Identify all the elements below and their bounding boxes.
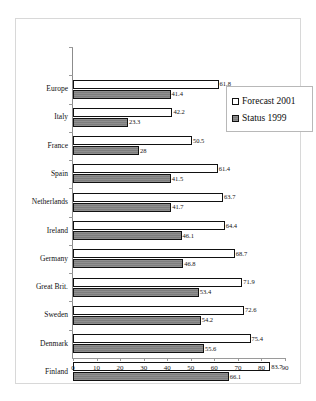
x-axis-tick bbox=[261, 358, 262, 361]
category-label: Spain bbox=[51, 169, 68, 179]
x-axis-tick-label: 70 bbox=[234, 364, 241, 373]
legend-item: Status 1999 bbox=[232, 113, 308, 124]
category-label: Italy bbox=[54, 112, 68, 122]
bar-forecast: 61.4 bbox=[73, 164, 218, 173]
bar-value-label: 42.2 bbox=[173, 108, 184, 116]
bar-status: 23.3 bbox=[73, 118, 128, 127]
x-axis-tick-label: 60 bbox=[211, 364, 218, 373]
bar-status: 28 bbox=[73, 146, 139, 155]
x-axis-tick-label: 20 bbox=[117, 364, 124, 373]
bar-forecast: 50.5 bbox=[73, 136, 192, 145]
x-axis-tick bbox=[191, 358, 192, 361]
bar-value-label: 46.8 bbox=[184, 260, 195, 268]
bar-status: 54.2 bbox=[73, 316, 201, 325]
bar-group: Ireland64.446.1 bbox=[73, 221, 285, 240]
x-axis-tick bbox=[144, 358, 145, 361]
y-axis-tick bbox=[69, 273, 73, 274]
bar-status: 53.4 bbox=[73, 288, 199, 297]
bar-status: 46.8 bbox=[73, 259, 183, 268]
legend-label: Forecast 2001 bbox=[242, 96, 296, 107]
bar-forecast: 68.7 bbox=[73, 249, 235, 258]
x-axis-tick bbox=[73, 358, 74, 361]
bar-forecast: 72.6 bbox=[73, 306, 244, 315]
bar-status: 55.6 bbox=[73, 344, 204, 353]
bar-value-label: 68.7 bbox=[236, 250, 247, 258]
x-axis-tick-label: 50 bbox=[187, 364, 194, 373]
bar-value-label: 75.4 bbox=[252, 335, 263, 343]
bar-value-label: 50.5 bbox=[193, 137, 204, 145]
bar-group: Finland83.766.1 bbox=[73, 362, 285, 381]
x-axis-tick-label: 80 bbox=[258, 364, 265, 373]
bar-value-label: 41.4 bbox=[172, 90, 183, 98]
bar-value-label: 61.4 bbox=[219, 165, 230, 173]
y-axis-tick bbox=[69, 160, 73, 161]
x-axis-tick bbox=[120, 358, 121, 361]
legend-label: Status 1999 bbox=[242, 113, 287, 124]
bar-status: 46.1 bbox=[73, 231, 182, 240]
bar-status: 41.5 bbox=[73, 174, 171, 183]
x-axis-tick bbox=[97, 358, 98, 361]
bar-forecast: 71.9 bbox=[73, 278, 242, 287]
x-axis-tick-label: 0 bbox=[71, 364, 75, 373]
chart-frame: Europe61.841.4Italy42.223.3France50.528S… bbox=[15, 18, 301, 384]
y-axis-tick bbox=[69, 104, 73, 105]
bar-value-label: 55.6 bbox=[205, 345, 216, 353]
category-label: Ireland bbox=[47, 226, 68, 236]
bar-value-label: 41.7 bbox=[172, 203, 183, 211]
bar-value-label: 53.4 bbox=[200, 288, 211, 296]
y-axis-tick bbox=[69, 245, 73, 246]
chart-legend: Forecast 2001Status 1999 bbox=[226, 86, 313, 132]
bar-status: 66.1 bbox=[73, 372, 229, 381]
bar-group: Germany68.746.8 bbox=[73, 249, 285, 268]
category-label: Great Brit. bbox=[36, 282, 68, 292]
bar-forecast: 63.7 bbox=[73, 193, 223, 202]
bar-forecast: 42.2 bbox=[73, 108, 172, 117]
y-axis-tick bbox=[69, 301, 73, 302]
category-label: Germany bbox=[40, 254, 68, 264]
legend-item: Forecast 2001 bbox=[232, 96, 308, 107]
x-axis-tick bbox=[214, 358, 215, 361]
category-label: Sweden bbox=[44, 310, 68, 320]
bar-value-label: 66.1 bbox=[230, 373, 241, 381]
legend-swatch-forecast bbox=[232, 98, 239, 105]
x-axis-tick bbox=[238, 358, 239, 361]
bar-group: Netherlands63.741.7 bbox=[73, 193, 285, 212]
bar-group: Spain61.441.5 bbox=[73, 164, 285, 183]
bar-status: 41.7 bbox=[73, 203, 171, 212]
category-label: Finland bbox=[45, 367, 68, 377]
y-axis-tick bbox=[69, 75, 73, 76]
bar-forecast: 61.8 bbox=[73, 80, 219, 89]
y-axis-tick bbox=[69, 188, 73, 189]
bar-value-label: 63.7 bbox=[224, 193, 235, 201]
bar-value-label: 41.5 bbox=[172, 175, 183, 183]
bar-value-label: 23.3 bbox=[129, 118, 140, 126]
bar-value-label: 28 bbox=[140, 147, 147, 155]
bar-value-label: 64.4 bbox=[226, 222, 237, 230]
category-label: Europe bbox=[46, 84, 68, 94]
category-label: Netherlands bbox=[32, 197, 68, 207]
bar-value-label: 54.2 bbox=[202, 316, 213, 324]
bar-forecast: 75.4 bbox=[73, 334, 251, 343]
bar-group: Sweden72.654.2 bbox=[73, 306, 285, 325]
y-axis-tick bbox=[69, 47, 73, 48]
y-axis-tick bbox=[69, 330, 73, 331]
x-axis-tick-label: 90 bbox=[282, 364, 289, 373]
bar-group: Great Brit.71.953.4 bbox=[73, 278, 285, 297]
x-axis-tick-label: 10 bbox=[93, 364, 100, 373]
y-axis-tick bbox=[69, 132, 73, 133]
category-label: Denmark bbox=[40, 339, 68, 349]
x-axis-tick-label: 30 bbox=[140, 364, 147, 373]
y-axis-tick bbox=[69, 217, 73, 218]
bar-group: Denmark75.455.6 bbox=[73, 334, 285, 353]
bar-value-label: 72.6 bbox=[245, 306, 256, 314]
x-axis-tick bbox=[285, 358, 286, 361]
bar-group: France50.528 bbox=[73, 136, 285, 155]
x-axis-line bbox=[72, 358, 286, 359]
legend-swatch-status bbox=[232, 115, 239, 122]
bar-value-label: 71.9 bbox=[243, 278, 254, 286]
x-axis-tick bbox=[167, 358, 168, 361]
bar-status: 41.4 bbox=[73, 90, 171, 99]
bar-value-label: 46.1 bbox=[183, 232, 194, 240]
x-axis-tick-label: 40 bbox=[164, 364, 171, 373]
bar-forecast: 64.4 bbox=[73, 221, 225, 230]
